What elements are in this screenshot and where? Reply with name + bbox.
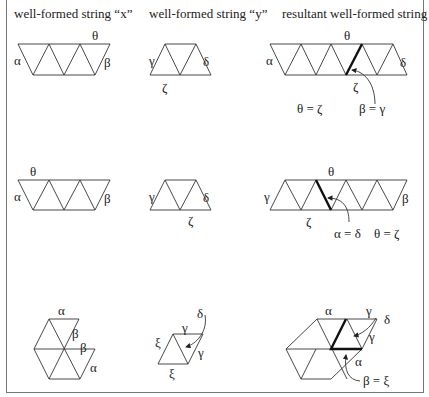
row3-y-gamma-top: γ xyxy=(181,320,188,335)
row2-result-gamma: γ xyxy=(263,189,270,204)
row3-y-delta: δ xyxy=(197,306,203,321)
row3-bold-joined-edges xyxy=(331,319,362,349)
row3-x-beta-1: β xyxy=(72,326,79,341)
row2-eq-theta-zeta: θ = ζ xyxy=(374,226,400,241)
row2-x-beta: β xyxy=(104,191,111,206)
row2-y-delta: δ xyxy=(203,190,209,205)
row2-y-zeta: ζ xyxy=(188,213,194,228)
row3-result-delta: δ xyxy=(384,312,390,327)
row1-eq-theta-zeta: θ = ζ xyxy=(297,101,323,116)
row2-y-gamma: γ xyxy=(148,189,155,204)
row3-y-gamma-right: γ xyxy=(197,345,204,360)
row1-string-y-shape xyxy=(150,44,211,75)
row1-x-beta: β xyxy=(104,55,111,70)
row3-eq-beta-xi: β = ξ xyxy=(363,373,389,388)
row3-result-gamma-right: γ xyxy=(368,329,375,344)
row1-x-theta: θ xyxy=(92,28,98,43)
row2-x-alpha: α xyxy=(14,189,21,204)
row3-x-beta-2: β xyxy=(80,340,87,355)
row1-result-theta: θ xyxy=(344,28,350,43)
row1-result-zeta: ζ xyxy=(353,79,359,94)
row2-result-shape xyxy=(270,180,407,210)
row2-result-beta: β xyxy=(402,191,409,206)
row1-result-delta: δ xyxy=(400,55,406,70)
row3-y-xi-left: ξ xyxy=(155,335,161,350)
row2-bold-joined-edge xyxy=(316,180,331,210)
row2-string-x-shape xyxy=(18,180,110,210)
row1-y-delta: δ xyxy=(203,54,209,69)
row2-x-theta: θ xyxy=(30,164,36,179)
row2-string-y-shape xyxy=(150,180,211,210)
row3-x-alpha-top: α xyxy=(58,303,65,318)
row3-result-alpha-right: α xyxy=(355,354,362,369)
row3-result-gamma-top: γ xyxy=(365,303,372,318)
row2-result-theta: θ xyxy=(328,164,334,179)
row1-x-alpha: α xyxy=(14,53,21,68)
row2-eq-alpha-delta: α = δ xyxy=(334,226,361,241)
diagram-canvas: θ α β γ δ ζ θ α δ ζ θ = ζ β = γ θ α β γ … xyxy=(0,0,429,397)
row1-string-x-shape xyxy=(18,44,110,75)
row1-y-gamma: γ xyxy=(148,53,155,68)
row1-eq-beta-gamma: β = γ xyxy=(359,101,385,116)
row3-result-alpha-top: α xyxy=(325,303,332,318)
row1-y-zeta: ζ xyxy=(162,80,168,95)
row1-result-shape xyxy=(270,44,407,75)
row3-y-xi-bottom: ξ xyxy=(169,366,175,381)
row1-result-alpha: α xyxy=(266,53,273,68)
row2-result-zeta: ζ xyxy=(306,214,312,229)
row3-x-alpha-bottom: α xyxy=(90,360,97,375)
row3-string-y-shape xyxy=(158,334,203,364)
